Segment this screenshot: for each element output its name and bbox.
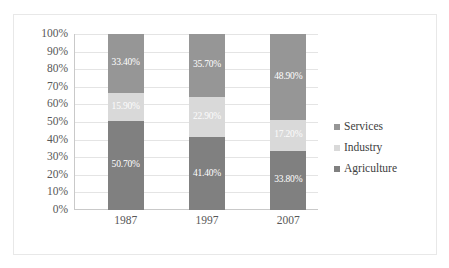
y-axis-tick-label: 100% bbox=[26, 28, 68, 40]
bar-segment-agriculture[interactable]: 33.80% bbox=[270, 151, 306, 210]
bar-segment-services[interactable]: 48.90% bbox=[270, 34, 306, 120]
y-axis-tick-label: 40% bbox=[26, 134, 68, 146]
bar-segment-data-label: 35.70% bbox=[189, 61, 225, 71]
bar-stack: 41.40%22.90%35.70% bbox=[189, 34, 225, 210]
legend-item-label: Services bbox=[344, 121, 383, 133]
bar-segment-data-label: 15.90% bbox=[108, 102, 144, 112]
bar-segment-data-label: 17.20% bbox=[270, 131, 306, 141]
bar-segment-industry[interactable]: 15.90% bbox=[108, 93, 144, 121]
y-axis-labels: 100%90%80%70%60%50%40%30%20%10%0% bbox=[22, 34, 68, 210]
x-axis-tick-label: 2007 bbox=[258, 215, 318, 227]
y-axis-tick-label: 60% bbox=[26, 99, 68, 111]
square-marker-icon bbox=[334, 166, 340, 172]
bar-segment-services[interactable]: 33.40% bbox=[108, 34, 144, 93]
legend-item[interactable]: Services bbox=[334, 116, 432, 137]
y-axis-tick-label: 50% bbox=[26, 116, 68, 128]
bar-group[interactable]: 41.40%22.90%35.70% bbox=[189, 34, 225, 210]
bar-segment-data-label: 41.40% bbox=[189, 169, 225, 179]
bar-segment-data-label: 48.90% bbox=[270, 72, 306, 82]
bar-segment-services[interactable]: 35.70% bbox=[189, 34, 225, 97]
x-axis-tick-label: 1997 bbox=[177, 215, 237, 227]
y-axis-tick-label: 0% bbox=[26, 204, 68, 216]
bar-stack: 33.80%17.20%48.90% bbox=[270, 34, 306, 210]
legend-item-label: Industry bbox=[344, 142, 382, 154]
legend-item-label: Agriculture bbox=[344, 163, 397, 175]
legend-item[interactable]: Agriculture bbox=[334, 158, 432, 179]
y-axis-tick-label: 20% bbox=[26, 169, 68, 181]
bar-group[interactable]: 50.70%15.90%33.40% bbox=[108, 34, 144, 210]
plot-area: 50.70%15.90%33.40%41.40%22.90%35.70%33.8… bbox=[74, 34, 318, 210]
bar-segment-agriculture[interactable]: 41.40% bbox=[189, 137, 225, 210]
bar-segment-agriculture[interactable]: 50.70% bbox=[108, 121, 144, 210]
y-axis-tick-label: 90% bbox=[26, 46, 68, 58]
bar-segment-industry[interactable]: 17.20% bbox=[270, 120, 306, 150]
y-axis-tick-label: 10% bbox=[26, 187, 68, 199]
bar-segment-data-label: 50.70% bbox=[108, 161, 144, 171]
y-axis-tick-label: 80% bbox=[26, 63, 68, 75]
square-marker-icon bbox=[334, 145, 340, 151]
bar-segment-data-label: 22.90% bbox=[189, 112, 225, 122]
bar-segment-industry[interactable]: 22.90% bbox=[189, 97, 225, 137]
x-axis-tick-label: 1987 bbox=[96, 215, 156, 227]
square-marker-icon bbox=[334, 124, 340, 130]
chart-frame: 100%90%80%70%60%50%40%30%20%10%0% 50.70%… bbox=[13, 14, 437, 255]
bar-group[interactable]: 33.80%17.20%48.90% bbox=[270, 34, 306, 210]
x-axis-labels: 198719972007 bbox=[74, 215, 318, 235]
y-axis-line bbox=[74, 34, 75, 210]
bar-segment-data-label: 33.40% bbox=[108, 59, 144, 69]
legend-item[interactable]: Industry bbox=[334, 137, 432, 158]
bar-stack: 50.70%15.90%33.40% bbox=[108, 34, 144, 210]
y-axis-tick-label: 70% bbox=[26, 81, 68, 93]
chart-legend: ServicesIndustryAgriculture bbox=[334, 116, 432, 179]
bar-segment-data-label: 33.80% bbox=[270, 176, 306, 186]
y-axis-tick-label: 30% bbox=[26, 151, 68, 163]
